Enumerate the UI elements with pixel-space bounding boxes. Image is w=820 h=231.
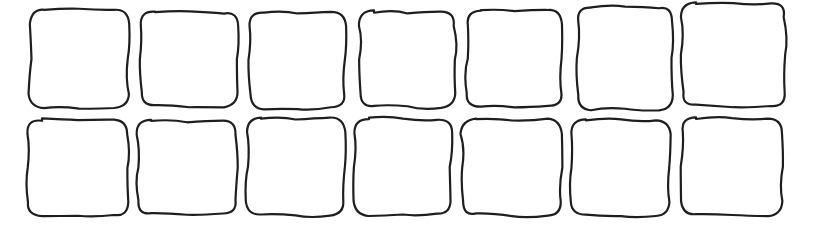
sketch-box-r2-c4 <box>353 117 452 216</box>
sketch-box-r1-c7 <box>681 2 787 107</box>
box-outline <box>576 6 673 111</box>
box-outline <box>140 11 239 107</box>
sketch-box-r1-c1 <box>29 9 130 109</box>
sketch-box-r1-c4 <box>359 10 457 108</box>
box-outline <box>353 117 452 216</box>
sketch-box-r2-c5 <box>460 119 562 218</box>
box-outline <box>681 2 787 107</box>
box-outline <box>460 119 562 218</box>
sketch-box-r1-c5 <box>465 10 562 108</box>
sketch-box-r2-c7 <box>681 117 783 216</box>
box-outline <box>681 117 783 216</box>
sketch-canvas <box>0 0 820 231</box>
box-outline <box>359 10 457 108</box>
sketch-box-r2-c6 <box>570 119 671 217</box>
box-outline <box>27 118 130 216</box>
sketch-box-r2-c2 <box>137 120 238 215</box>
sketch-box-r1-c6 <box>576 6 673 111</box>
box-outline <box>465 10 562 108</box>
box-outline <box>137 120 238 215</box>
sketch-box-r2-c3 <box>246 118 346 217</box>
box-outline <box>246 118 346 217</box>
sketch-box-r2-c1 <box>27 118 130 216</box>
box-outline <box>570 119 671 217</box>
box-outline <box>29 9 130 109</box>
box-outline <box>248 12 346 110</box>
sketch-box-r1-c2 <box>140 11 239 107</box>
sketch-box-r1-c3 <box>248 12 346 110</box>
